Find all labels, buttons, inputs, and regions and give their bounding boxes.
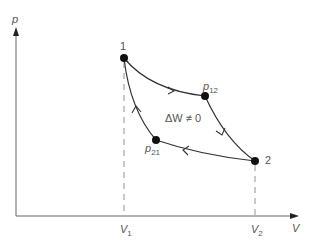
point-2 <box>251 157 259 165</box>
y-axis-label: p <box>12 13 18 25</box>
curve-1-to-p12 <box>124 58 205 96</box>
v1-tick-label: V1 <box>120 223 132 238</box>
p12-label: p12 <box>203 80 218 95</box>
curve-p12-to-2 <box>205 96 255 161</box>
curve-p21-to-1 <box>124 58 156 140</box>
point-1 <box>120 54 128 62</box>
pv-diagram <box>0 0 314 248</box>
p21-label: p21 <box>145 142 160 157</box>
work-annotation: ΔW ≠ 0 <box>165 112 201 124</box>
curve-2-to-p21 <box>156 140 255 161</box>
y-axis-arrow-icon <box>13 27 19 36</box>
v2-tick-label: V2 <box>251 223 263 238</box>
arrow-icon <box>168 87 174 94</box>
arrow-icon <box>183 146 189 155</box>
x-axis-label: V <box>292 222 299 234</box>
x-axis-arrow-icon <box>290 213 299 219</box>
point-1-label: 1 <box>120 40 126 52</box>
point-2-label: 2 <box>265 154 271 166</box>
